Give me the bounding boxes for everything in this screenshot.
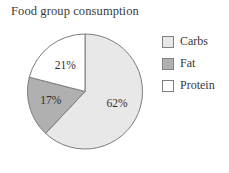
legend-label-protein: Protein <box>180 79 215 92</box>
legend-item-fat[interactable]: Fat <box>162 53 228 74</box>
legend-swatch-carbs-icon <box>162 36 174 48</box>
pie-slice-label-protein: 21% <box>55 59 77 71</box>
legend-label-carbs: Carbs <box>180 35 208 48</box>
legend-swatch-fat-icon <box>162 58 174 70</box>
pie-slice-label-carbs: 62% <box>107 97 129 109</box>
legend-label-fat: Fat <box>180 57 195 70</box>
pie-chart-figure: Food group consumption 62% 17% 21% Carbs… <box>0 0 229 173</box>
chart-legend: Carbs Fat Protein <box>162 31 228 97</box>
legend-item-protein[interactable]: Protein <box>162 75 228 96</box>
pie-chart-plot-area: 62% 17% 21% <box>0 0 155 173</box>
pie-chart-svg: 62% 17% 21% <box>0 0 155 173</box>
legend-swatch-protein-icon <box>162 80 174 92</box>
pie-slice-label-fat: 17% <box>40 94 62 106</box>
legend-item-carbs[interactable]: Carbs <box>162 31 228 52</box>
